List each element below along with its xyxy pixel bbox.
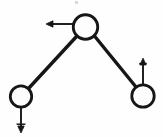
top-node-arrow xyxy=(46,21,73,27)
node-group xyxy=(10,15,154,107)
top-node-arrow-head xyxy=(46,21,53,27)
bottom-left-node-arrow-head xyxy=(18,126,24,133)
right-rod xyxy=(95,36,137,87)
rod-group xyxy=(29,36,137,89)
bottom-left-node xyxy=(10,86,31,107)
top-node xyxy=(73,15,97,39)
linkage-diagram xyxy=(0,0,163,137)
scan-speck-icon xyxy=(75,1,78,4)
bottom-right-node-arrow xyxy=(139,58,147,84)
left-rod xyxy=(29,37,77,89)
bottom-right-node xyxy=(132,85,154,107)
bottom-left-node-arrow xyxy=(17,107,26,133)
diagram-canvas xyxy=(0,0,163,137)
